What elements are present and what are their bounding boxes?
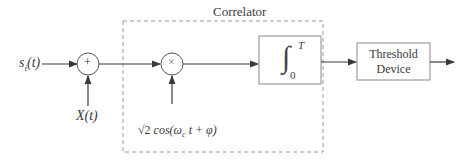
input-signal-arg: (t) — [27, 55, 40, 70]
noise-label: X(t) — [76, 108, 98, 124]
threshold-device-label: Threshold Device — [357, 47, 430, 77]
multiplier-symbol: × — [168, 55, 175, 70]
integral-lower-limit: 0 — [290, 69, 296, 81]
integral-upper-limit: T — [298, 39, 304, 51]
threshold-line2: Device — [357, 62, 430, 77]
sqrt-two: √2 — [138, 123, 151, 137]
correlator-title: Correlator — [213, 4, 266, 20]
cos-omega: cos(ω — [151, 123, 182, 137]
correlator-receiver-diagram: si(t) + X(t) × Correlator √2 cos(ωc t + … — [0, 0, 470, 162]
input-signal-label: si(t) — [19, 55, 40, 73]
integral-sign: ∫ — [282, 40, 290, 74]
threshold-line1: Threshold — [357, 47, 430, 62]
reference-label: √2 cos(ωc t + φ) — [138, 123, 217, 139]
adder-symbol: + — [84, 55, 91, 70]
reference-rest: t + φ) — [186, 123, 217, 137]
diagram-graphics — [0, 0, 470, 162]
